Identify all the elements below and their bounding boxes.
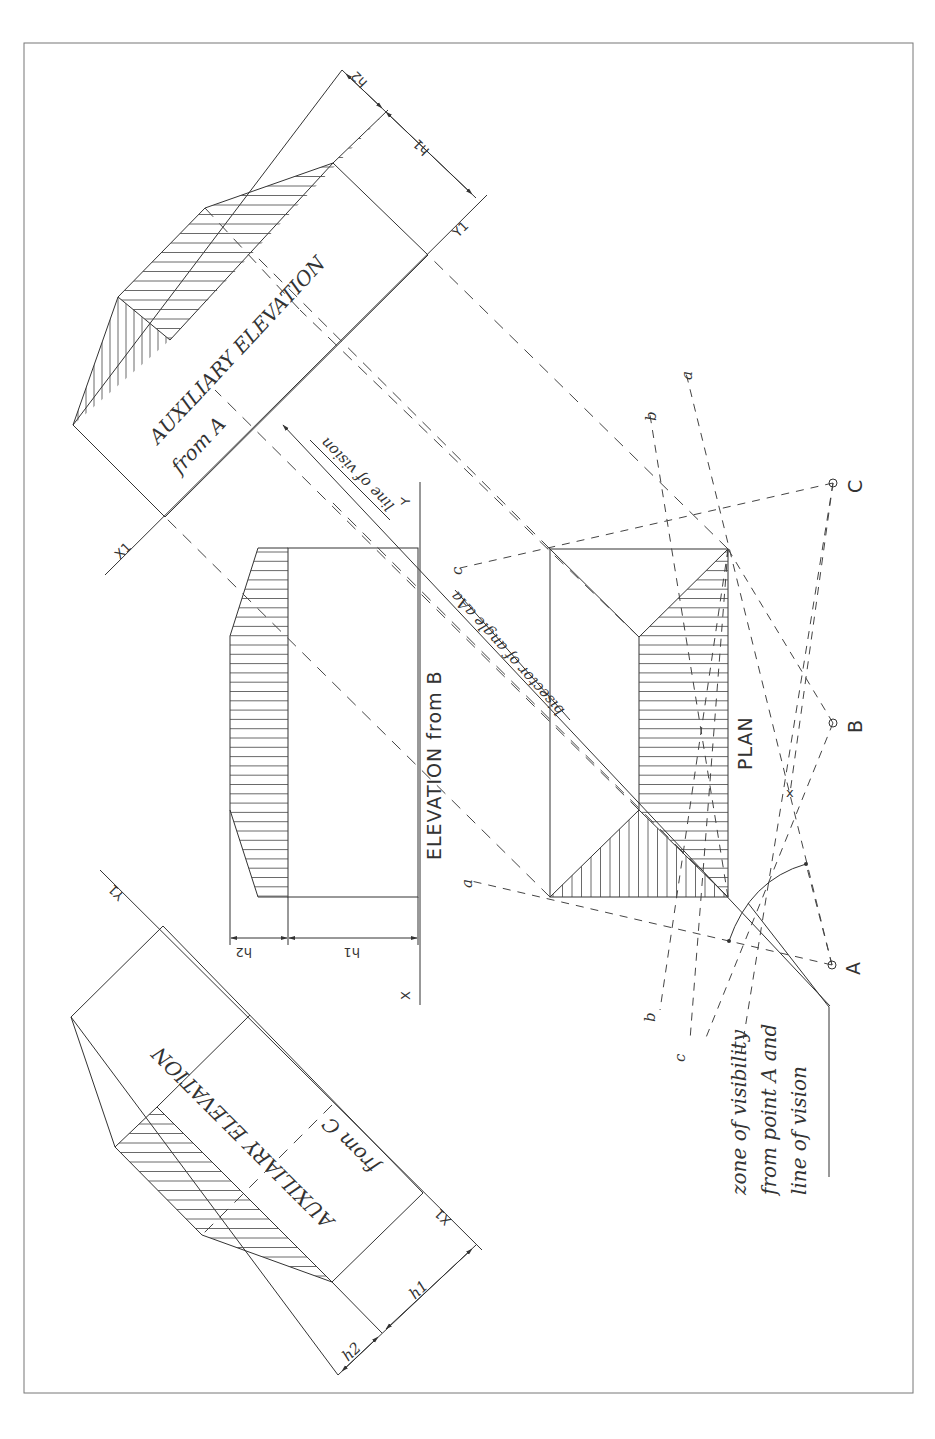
viewpoint-b: B	[829, 719, 866, 733]
aux-c-h1-label: h1	[405, 1277, 431, 1303]
zone-note-line-3: line of vision	[787, 1066, 811, 1195]
plan-hatch-horizontal	[630, 552, 730, 896]
viewpoint-c-label: C	[844, 479, 866, 493]
aux-a-label-1: AUXILIARY ELEVATION	[143, 250, 331, 450]
arc-point-lower	[727, 939, 731, 943]
ray-label-a-top: a	[678, 371, 696, 380]
y1-label-c: Y1	[105, 881, 128, 904]
ray-label-c-bottom: c	[671, 1053, 689, 1062]
aux-c-label-1: AUXILIARY ELEVATION	[146, 1041, 340, 1235]
plan-label: PLAN	[734, 716, 756, 770]
aux-a-h1-label: h1	[410, 136, 432, 158]
elevation-from-b: Y X h2 h1 ELEVATION from B	[228, 482, 445, 1005]
elev-h1-label: h1	[343, 945, 360, 960]
ray-label-c-left: c	[448, 566, 466, 575]
aux-a-h2-label: h2	[348, 68, 370, 90]
auxiliary-elevation-from-a: Y1 X1 h2 h1 AUXILIARY ELEVATION from A	[70, 68, 487, 575]
visibility-arc	[729, 864, 806, 941]
ray-label-b-bottom: b	[641, 1012, 659, 1022]
intersection-mark: x	[786, 785, 794, 800]
y-label: Y	[398, 497, 413, 506]
x1-label-c: X1	[431, 1206, 454, 1229]
drawing-sheet: PLAN Y X h2 h1 ELEVATION from B Y1 X1	[0, 0, 935, 1439]
viewpoint-c: C	[829, 479, 866, 493]
zone-note-line-2: from point A and	[757, 1024, 781, 1197]
aux-c-h2-label: h2	[338, 1339, 364, 1365]
line-of-vision: line of vision bisector of angle aAa	[283, 425, 830, 1006]
aux-c-label-2: from C	[317, 1112, 385, 1180]
elevation-b-label: ELEVATION from B	[423, 670, 445, 860]
plan-view: PLAN	[550, 549, 756, 900]
x-label: X	[398, 991, 413, 1000]
sight-rays	[460, 373, 833, 1060]
y1-label-a: Y1	[449, 218, 472, 241]
x1-label-a: X1	[112, 539, 135, 562]
ray-label-a-left: a	[458, 879, 476, 888]
zone-note-line-1: zone of visibility	[727, 1029, 751, 1196]
viewpoint-a: A	[828, 961, 864, 975]
elev-h2-label: h2	[235, 945, 252, 960]
viewpoint-b-label: B	[844, 719, 866, 733]
plan-hatch-vertical	[553, 805, 724, 900]
viewpoint-a-label: A	[842, 961, 864, 975]
ray-label-b-top: b	[642, 411, 660, 421]
arc-point-upper	[804, 862, 808, 866]
